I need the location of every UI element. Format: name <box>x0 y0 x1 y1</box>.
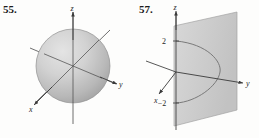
figure-55-graphic: z y x <box>0 0 130 138</box>
axis-label-y-57: y <box>245 79 250 88</box>
axes-57 <box>146 14 176 130</box>
axis-label-z-55: z <box>70 4 75 13</box>
axis-label-y-55: y <box>118 80 123 89</box>
figure-55-number: 55. <box>3 4 17 15</box>
z-tick-label-positive: 2 <box>162 37 166 46</box>
figure-57-number: 57. <box>139 4 153 15</box>
figure-57-graphic: z y x 2 −2 <box>130 0 259 138</box>
figure-57: 57. <box>130 0 259 138</box>
figure-page: 55. <box>0 0 259 138</box>
axis-label-z-57: z <box>173 3 178 12</box>
figure-55: 55. <box>0 0 130 138</box>
axis-label-x-55: x <box>28 105 33 114</box>
plane-shape <box>174 12 237 126</box>
z-tick-label-negative: −2 <box>158 99 167 108</box>
